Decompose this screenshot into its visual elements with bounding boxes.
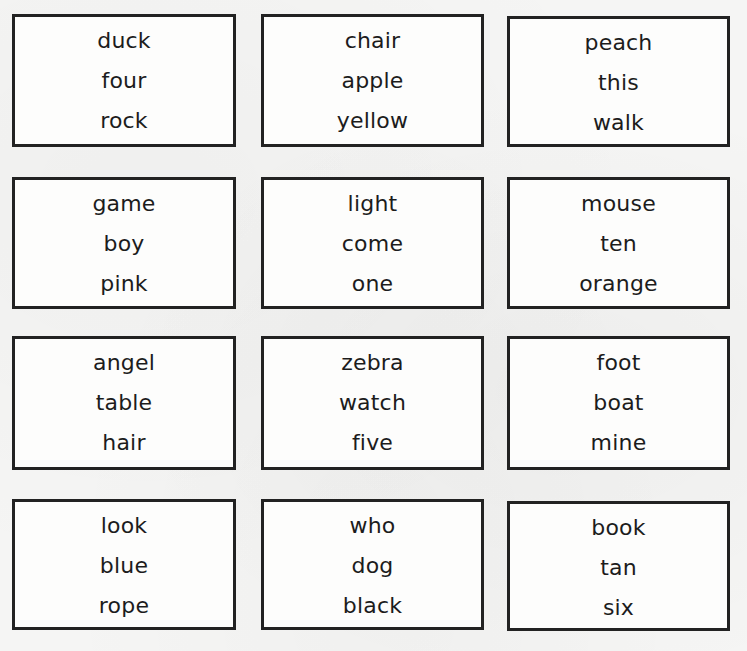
word-card: foot boat mine bbox=[507, 336, 730, 470]
word: rock bbox=[15, 108, 233, 134]
worksheet-page: duck four rock chair apple yellow peach … bbox=[0, 0, 747, 651]
word-card: zebra watch five bbox=[261, 336, 484, 470]
word: game bbox=[15, 191, 233, 217]
word-card: duck four rock bbox=[12, 14, 236, 147]
word: boy bbox=[15, 231, 233, 257]
word: dog bbox=[264, 553, 481, 579]
word: rope bbox=[15, 593, 233, 619]
word: yellow bbox=[264, 108, 481, 134]
word: this bbox=[510, 70, 727, 96]
word: who bbox=[264, 513, 481, 539]
word-card: game boy pink bbox=[12, 177, 236, 309]
word: book bbox=[510, 515, 727, 541]
word-card: light come one bbox=[261, 177, 484, 309]
word: one bbox=[264, 271, 481, 297]
word: light bbox=[264, 191, 481, 217]
word-card: mouse ten orange bbox=[507, 177, 730, 309]
word: duck bbox=[15, 28, 233, 54]
word: ten bbox=[510, 231, 727, 257]
word: foot bbox=[510, 350, 727, 376]
word: watch bbox=[264, 390, 481, 416]
word: angel bbox=[15, 350, 233, 376]
word: tan bbox=[510, 555, 727, 581]
word: orange bbox=[510, 271, 727, 297]
word: peach bbox=[510, 30, 727, 56]
word: zebra bbox=[264, 350, 481, 376]
word: mine bbox=[510, 430, 727, 456]
word: come bbox=[264, 231, 481, 257]
word: walk bbox=[510, 110, 727, 136]
word-card: look blue rope bbox=[12, 499, 236, 630]
word-card: chair apple yellow bbox=[261, 14, 484, 147]
word-card: peach this walk bbox=[507, 16, 730, 147]
word: hair bbox=[15, 430, 233, 456]
word: five bbox=[264, 430, 481, 456]
word-card: angel table hair bbox=[12, 336, 236, 470]
word-card: book tan six bbox=[507, 501, 730, 631]
word: black bbox=[264, 593, 481, 619]
word: apple bbox=[264, 68, 481, 94]
word: pink bbox=[15, 271, 233, 297]
word: blue bbox=[15, 553, 233, 579]
word: chair bbox=[264, 28, 481, 54]
word: table bbox=[15, 390, 233, 416]
word: boat bbox=[510, 390, 727, 416]
word-card: who dog black bbox=[261, 499, 484, 630]
word: six bbox=[510, 595, 727, 621]
word: look bbox=[15, 513, 233, 539]
word: four bbox=[15, 68, 233, 94]
word: mouse bbox=[510, 191, 727, 217]
